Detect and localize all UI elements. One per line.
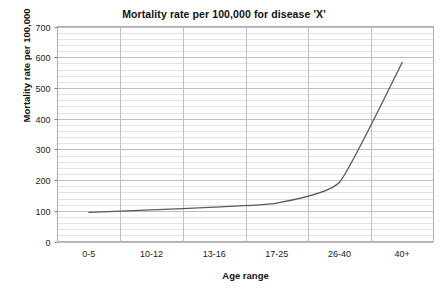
y-tick-label: 100 (35, 207, 50, 217)
plot-border (58, 27, 434, 242)
x-tick-label: 40+ (395, 249, 410, 259)
y-tick-label: 700 (35, 23, 50, 33)
x-tick-label: 0-5 (82, 249, 95, 259)
y-tick-label: 400 (35, 115, 50, 125)
x-axis-tick-labels: 0-510-1213-1617-2526-4040+ (82, 249, 409, 259)
figure-container: Mortality rate per 100,000 for disease '… (0, 0, 448, 293)
y-tick-label: 0 (45, 238, 50, 248)
caption-remnant (4, 281, 144, 290)
y-tick-label: 500 (35, 84, 50, 94)
plot-area: 0100200300400500600700 0-510-1213-1617-2… (0, 0, 448, 293)
y-tick-label: 200 (35, 176, 50, 186)
x-tick-label: 17-25 (265, 249, 288, 259)
y-axis-tick-labels: 0100200300400500600700 (35, 23, 50, 248)
x-axis-title: Age range (57, 270, 434, 281)
x-tick-label: 13-16 (203, 249, 226, 259)
y-tick-label: 600 (35, 53, 50, 63)
x-tick-label: 10-12 (140, 249, 163, 259)
major-gridlines (58, 28, 434, 243)
x-tick-label: 26-40 (328, 249, 351, 259)
y-tick-label: 300 (35, 145, 50, 155)
